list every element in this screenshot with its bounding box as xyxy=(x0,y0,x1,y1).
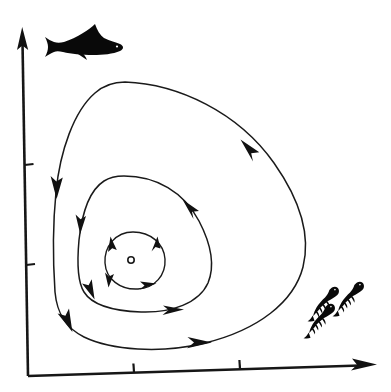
outer-orbit-arrow-down-left xyxy=(51,176,63,199)
phase-portrait-figure xyxy=(0,0,391,392)
x-axis xyxy=(28,359,377,377)
middle-orbit xyxy=(76,176,212,315)
x-axis-line xyxy=(28,366,360,377)
equilibrium-point xyxy=(128,257,134,263)
fish-icon xyxy=(45,24,123,60)
outer-orbit-arrow-right-bottom xyxy=(187,337,212,348)
y-axis-line xyxy=(23,42,29,376)
shrimp-icon-group xyxy=(295,280,372,341)
y-axis-tick-2 xyxy=(26,264,35,265)
orbits-group xyxy=(51,82,306,349)
inner-orbit xyxy=(105,232,165,290)
phase-portrait-canvas xyxy=(0,0,391,392)
y-axis-tick-1 xyxy=(25,164,34,165)
y-axis xyxy=(17,27,35,376)
x-axis-tick-2 xyxy=(239,360,240,369)
middle-orbit-path xyxy=(78,176,212,312)
middle-orbit-arrow-down-left xyxy=(76,215,86,235)
x-axis-tick-1 xyxy=(133,364,134,373)
